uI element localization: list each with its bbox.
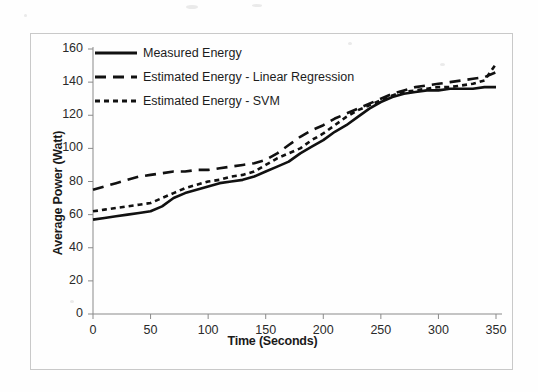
legend-item[interactable]: Measured Energy xyxy=(94,46,242,60)
chart-figure: 020406080100120140160 050100150200250300… xyxy=(0,0,538,392)
legend-item[interactable]: Estimated Energy - Linear Regression xyxy=(94,70,354,84)
legend-item-label: Estimated Energy - Linear Regression xyxy=(143,70,354,84)
scan-speckle xyxy=(186,5,198,9)
legend-item-label: Measured Energy xyxy=(143,46,242,60)
scan-speckle xyxy=(24,14,27,17)
x-axis-title: Time (Seconds) xyxy=(31,334,514,348)
legend-item[interactable]: Estimated Energy - SVM xyxy=(94,94,280,108)
scan-speckle xyxy=(252,4,262,7)
y-tick-label: 160 xyxy=(49,41,83,55)
legend-swatch-long-dash-icon xyxy=(94,71,138,83)
legend-item-label: Estimated Energy - SVM xyxy=(143,94,280,108)
chart-canvas xyxy=(31,34,514,371)
plot-area: 020406080100120140160 050100150200250300… xyxy=(30,33,513,370)
series-line xyxy=(93,64,496,211)
y-tick-label: 0 xyxy=(49,306,83,320)
legend-swatch-solid-icon xyxy=(94,47,138,59)
legend-swatch-short-dash-icon xyxy=(94,95,138,107)
y-axis-title: Average Power (Watt) xyxy=(51,103,65,283)
series-layer xyxy=(93,64,496,220)
y-tick-label: 140 xyxy=(49,74,83,88)
